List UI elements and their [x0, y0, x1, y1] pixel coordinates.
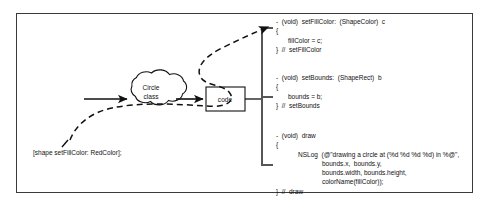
circle-class-label: Circle class: [128, 83, 174, 101]
code-line: fillColor = c;: [276, 36, 385, 45]
cloud-line-1: Circle: [128, 83, 174, 92]
code-line: NSLog (@"drawing a circle at (%d %d %d %…: [276, 150, 459, 159]
code-line: {: [276, 140, 459, 149]
figure-canvas: 0, 0, 10, 30 Red (Circle) Circle class c…: [0, 0, 490, 207]
callout-leader-dash: [62, 140, 68, 147]
code-line: - (void) setBounds: (ShapeRect) b: [276, 73, 382, 82]
object-line-1: 0, 0,: [28, 76, 84, 85]
method-block-setFillColor: - (void) setFillColor: (ShapeColor) c { …: [276, 17, 385, 54]
cloud-line-2: class: [128, 92, 174, 101]
method-block-setBounds: - (void) setBounds: (ShapeRect) b { boun…: [276, 73, 382, 110]
code-line: bounds.x, bounds.y,: [276, 159, 459, 168]
code-line: } // draw: [276, 187, 459, 196]
message-send-callout: [shape setFillColor: RedColor];: [33, 149, 122, 156]
code-line: - (void) draw: [276, 131, 459, 140]
code-line: {: [276, 82, 382, 91]
circle-object-label: 0, 0, 10, 30 Red (Circle): [28, 76, 84, 110]
code-line: } // setBounds: [276, 101, 382, 110]
code-box-label: code: [207, 96, 243, 103]
code-line: bounds.width, bounds.height,: [276, 168, 459, 177]
method-block-draw: - (void) draw { NSLog (@"drawing a circl…: [276, 131, 459, 196]
code-line: colorName(fillColor));: [276, 177, 459, 186]
object-line-4: (Circle): [28, 102, 84, 111]
object-line-3: Red: [28, 93, 84, 102]
code-line: } // setFillColor: [276, 45, 385, 54]
code-line: - (void) setFillColor: (ShapeColor) c: [276, 17, 385, 26]
code-line: bounds = b;: [276, 92, 382, 101]
object-line-2: 10, 30: [28, 85, 84, 94]
code-line: {: [276, 26, 385, 35]
